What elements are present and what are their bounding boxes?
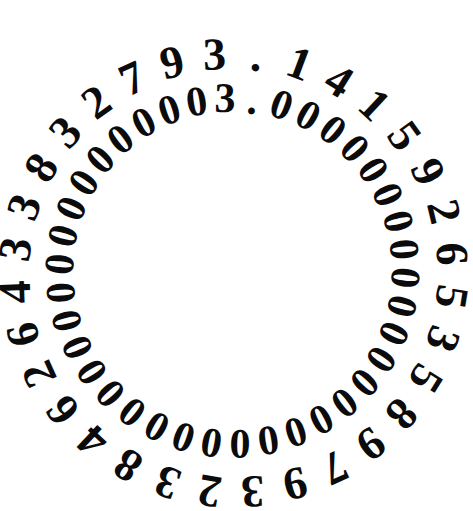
outer-ring-char: 8 (16, 146, 67, 190)
inner-ring-char: 0 (44, 306, 90, 336)
outer-ring-char: 6 (429, 242, 473, 267)
outer-ring-char: 2 (195, 466, 225, 511)
outer-ring-char: 6 (0, 318, 48, 351)
inner-ring-char: 0 (376, 206, 422, 236)
inner-ring-char: 0 (255, 418, 282, 463)
inner-ring-char: 0 (183, 79, 210, 124)
inner-ring-char: 0 (229, 423, 251, 465)
inner-ring-char: 3 (214, 77, 236, 119)
inner-ring-char: 0 (40, 220, 86, 251)
inner-ring-char: 0 (37, 252, 81, 277)
outer-ring-char: 5 (427, 282, 473, 312)
outer-ring-char: 1 (350, 80, 398, 129)
outer-ring-char: 9 (278, 459, 311, 509)
outer-ring-char: . (248, 32, 267, 79)
outer-ring-char: 9 (402, 152, 453, 192)
outer-ring-char: 3 (417, 320, 468, 358)
outer-ring-char: 7 (112, 53, 152, 104)
inner-ring-char: 0 (197, 420, 225, 465)
outer-ring-char: 3 (202, 31, 227, 78)
outer-ring-char: 9 (348, 419, 394, 470)
outer-ring-char: 3 (149, 457, 187, 508)
outer-ring-char: 3 (240, 468, 265, 511)
inner-ring-char: . (245, 78, 263, 121)
outer-ring-char: 8 (377, 390, 426, 438)
inner-ring-char: 0 (384, 265, 428, 290)
outer-ring-char: 2 (419, 195, 469, 228)
inner-ring-char: 0 (379, 291, 425, 322)
inner-ring-char: 0 (39, 281, 82, 305)
outer-ring-char: 8 (106, 440, 150, 491)
outer-ring-char: 4 (0, 280, 38, 305)
outer-ring-char: 5 (400, 357, 451, 401)
inner-ring-char: 0 (383, 237, 426, 261)
outer-ring-char: 6 (37, 388, 88, 434)
outer-ring-char: 3 (0, 234, 40, 264)
outer-ring-char: 7 (315, 442, 355, 493)
